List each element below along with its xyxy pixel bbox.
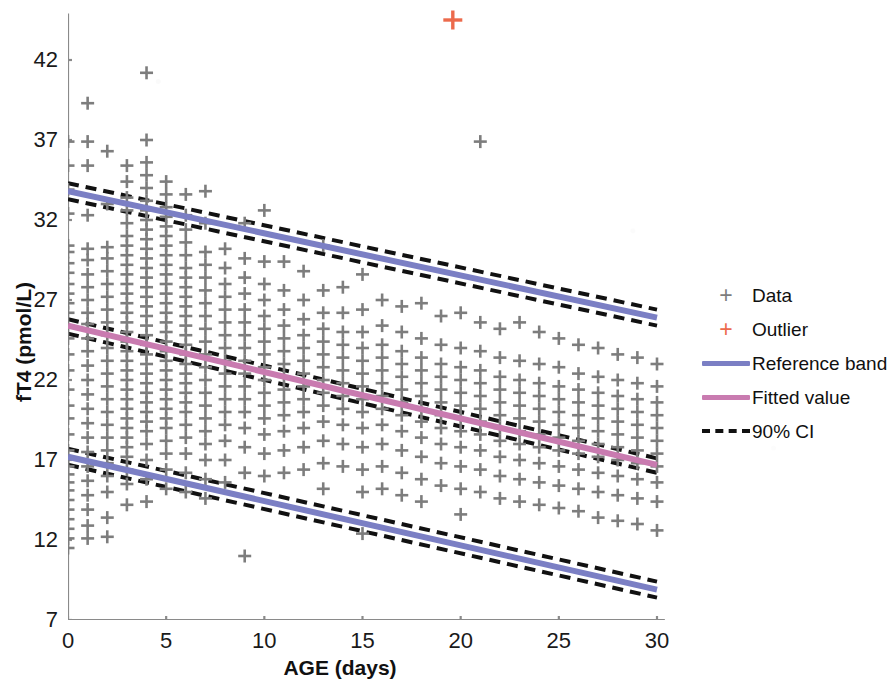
chart-legend: +Data+OutlierReference bandFitted value9… xyxy=(700,278,879,448)
legend-label: Fitted value xyxy=(752,388,850,407)
legend-row: +Data xyxy=(700,278,879,312)
x-tick-label: 20 xyxy=(448,628,472,654)
line-swatch-icon xyxy=(702,395,750,400)
legend-key-line xyxy=(700,386,752,408)
outlier-points xyxy=(443,11,462,30)
legend-key-marker: + xyxy=(700,284,752,306)
y-axis-title: fT4 (pmol/L) xyxy=(12,222,36,462)
dashed-line-swatch-icon xyxy=(702,429,750,433)
x-tick-label: 0 xyxy=(62,628,74,654)
legend-key-line xyxy=(700,352,752,374)
x-axis-title: AGE (days) xyxy=(0,656,680,679)
legend-key-marker: + xyxy=(700,318,752,340)
x-tick-label: 30 xyxy=(645,628,669,654)
legend-label: 90% CI xyxy=(752,422,814,441)
x-tick-label: 15 xyxy=(350,628,374,654)
x-tick-label: 25 xyxy=(547,628,571,654)
legend-label: Outlier xyxy=(752,320,808,339)
y-tick-label: 37 xyxy=(12,127,58,153)
line-swatch-icon xyxy=(702,361,750,366)
legend-row: Reference band xyxy=(700,346,879,380)
y-tick-label: 12 xyxy=(12,527,58,553)
plus-marker-icon: + xyxy=(719,318,732,341)
fit-line xyxy=(68,191,657,317)
x-tick-label: 5 xyxy=(160,628,172,654)
axis-lines xyxy=(68,14,665,620)
plus-marker-icon: + xyxy=(719,284,732,307)
x-tick-label: 10 xyxy=(252,628,276,654)
scatter-points xyxy=(68,66,664,562)
legend-label: Reference band xyxy=(752,354,887,373)
legend-row: +Outlier xyxy=(700,312,879,346)
plot-area xyxy=(68,8,768,620)
ci-line xyxy=(68,183,657,309)
legend-label: Data xyxy=(752,286,792,305)
fit-line xyxy=(68,457,657,590)
legend-row: 90% CI xyxy=(700,414,879,448)
y-tick-label: 42 xyxy=(12,47,58,73)
legend-row: Fitted value xyxy=(700,380,879,414)
legend-key-dashed xyxy=(700,420,752,442)
plot-svg xyxy=(68,8,768,620)
